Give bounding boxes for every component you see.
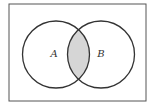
- venn-diagram: A B: [0, 0, 155, 107]
- set-b-label: B: [96, 48, 104, 59]
- set-a-label: A: [49, 48, 57, 59]
